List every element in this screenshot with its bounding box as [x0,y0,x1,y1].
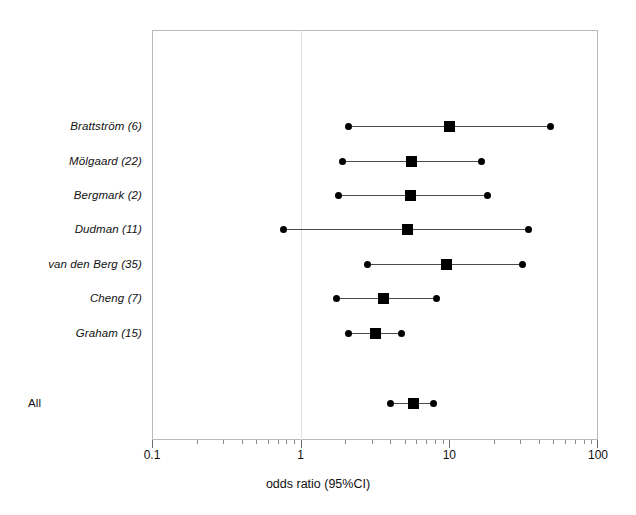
ci-cap-high [547,123,554,130]
x-tick-label: 10 [443,449,456,461]
x-tick-label: 100 [588,449,608,461]
ci-cap-low [335,192,342,199]
ci-cap-high [525,226,532,233]
ci-cap-low [339,158,346,165]
forest-row [0,120,636,134]
x-axis-title: odds ratio (95%CI) [0,478,636,491]
x-tick-minor [372,440,373,444]
x-tick-minor [584,440,585,444]
x-tick-minor [390,440,391,444]
x-tick-major [597,440,598,448]
forest-row [0,327,636,341]
ci-cap-high [519,261,526,268]
odds-ratio-marker [405,190,416,201]
x-tick-minor [591,440,592,444]
odds-ratio-marker [444,121,455,132]
x-tick-minor [443,440,444,444]
forest-row [0,155,636,169]
ci-cap-low [280,226,287,233]
x-tick-minor [553,440,554,444]
ci-cap-low [345,123,352,130]
odds-ratio-marker [378,293,389,304]
ci-cap-low [345,330,352,337]
forest-row [0,292,636,306]
x-tick-minor [256,440,257,444]
x-axis-ticks [152,440,598,448]
forest-row [0,189,636,203]
odds-ratio-marker [408,398,419,409]
ci-cap-high [398,330,405,337]
x-tick-label: 0.1 [144,449,161,461]
x-tick-minor [426,440,427,444]
ci-cap-high [478,158,485,165]
ci-cap-high [433,295,440,302]
odds-ratio-marker [370,328,381,339]
x-tick-label: 1 [297,449,304,461]
x-tick-minor [286,440,287,444]
odds-ratio-marker [441,259,452,270]
ci-cap-low [387,400,394,407]
x-tick-minor [435,440,436,444]
x-tick-minor [494,440,495,444]
x-tick-minor [242,440,243,444]
x-tick-major [152,440,153,448]
x-tick-minor [268,440,269,444]
x-tick-major [301,440,302,448]
ci-cap-high [484,192,491,199]
ci-cap-high [430,400,437,407]
x-tick-minor [278,440,279,444]
x-tick-minor [223,440,224,444]
x-tick-minor [294,440,295,444]
x-tick-minor [416,440,417,444]
ci-cap-low [333,295,340,302]
x-tick-minor [520,440,521,444]
forest-plot: Brattström (6)Mölgaard (22)Bergmark (2)D… [0,0,636,515]
x-tick-minor [405,440,406,444]
x-tick-minor [197,440,198,444]
x-tick-major [449,440,450,448]
ci-cap-low [364,261,371,268]
forest-row [0,223,636,237]
x-tick-minor [345,440,346,444]
x-tick-minor [565,440,566,444]
x-tick-minor [575,440,576,444]
forest-row [0,397,636,411]
odds-ratio-marker [406,156,417,167]
x-tick-minor [539,440,540,444]
forest-row [0,258,636,272]
odds-ratio-marker [402,224,413,235]
